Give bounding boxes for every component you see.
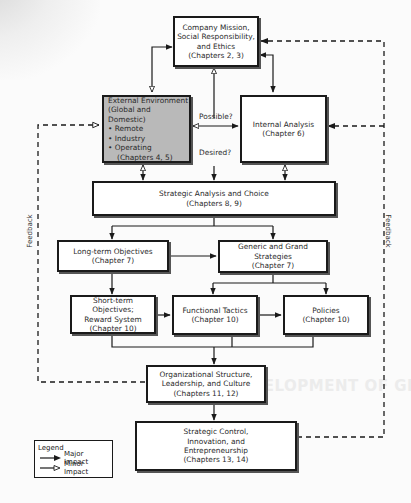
node-text: External Environment [108, 96, 188, 105]
node-text: (Chapter 10) [191, 315, 238, 324]
node-text: Strategic Analysis and Choice [159, 189, 269, 198]
bullet-item: • Industry [108, 134, 145, 143]
node-text: Long-term Objectives [73, 247, 152, 256]
node-text: (Chapters 2, 3) [188, 51, 244, 60]
node-text: Social Responsibility, [177, 32, 255, 41]
node-text: Reward System [84, 315, 141, 324]
node-text: and Ethics [197, 42, 235, 51]
node-external-environment: External Environment (Global and Domesti… [102, 95, 191, 163]
node-text: (Chapters 13, 14) [183, 455, 248, 464]
edge-label-desired: Desired? [199, 148, 231, 157]
node-strategic-analysis: Strategic Analysis and Choice (Chapters … [92, 181, 336, 216]
legend-item-minor: Minor Impact [38, 463, 109, 473]
node-text: (Chapter 10) [89, 324, 136, 333]
node-policies: Policies (Chapter 10) [283, 295, 369, 335]
node-text: (Chapters 4, 5) [108, 153, 173, 162]
legend: Legend Major Impact Minor Impact [34, 440, 113, 478]
node-text: Organizational Structure, [160, 370, 253, 379]
bullet-item: • Operating [108, 143, 152, 152]
node-strategic-control: Strategic Control, Innovation, and Entre… [135, 421, 297, 471]
node-text: Short-term Objectives; [72, 296, 154, 315]
node-functional-tactics: Functional Tactics (Chapter 10) [172, 295, 258, 335]
feedback-label-left: Feedback [26, 214, 34, 247]
feedback-label-right: Feedback [384, 214, 392, 247]
node-text: Generic and Grand Strategies [220, 242, 326, 261]
node-text: (Chapters 8, 9) [186, 199, 242, 208]
node-long-term-objectives: Long-term Objectives (Chapter 7) [57, 240, 169, 272]
node-text: Leadership, and Culture [162, 379, 250, 388]
node-text: (Chapter 10) [302, 315, 349, 324]
node-text: Strategic Control, [184, 427, 249, 436]
node-text: (Chapter 7) [252, 261, 294, 270]
node-internal-analysis: Internal Analysis (Chapter 6) [240, 95, 327, 163]
node-text: Functional Tactics [182, 306, 247, 315]
node-generic-grand-strategies: Generic and Grand Strategies (Chapter 7) [218, 240, 328, 273]
node-text: (Chapter 7) [92, 256, 134, 265]
bullet-item: • Remote [108, 124, 143, 133]
node-organizational-structure: Organizational Structure, Leadership, an… [146, 365, 266, 403]
node-text: Internal Analysis [253, 120, 314, 129]
node-text: (Chapters 11, 12) [173, 389, 238, 398]
filled-arrow-icon [38, 454, 62, 462]
node-text: Entrepreneurship [184, 446, 248, 455]
edge-label-possible: Possible? [199, 112, 233, 121]
hollow-arrow-icon [38, 464, 62, 472]
legend-label: Minor Impact [64, 460, 109, 476]
node-text: Company Mission, [182, 23, 249, 32]
node-company-mission: Company Mission, Social Responsibility, … [173, 16, 259, 67]
node-text: Policies [312, 306, 339, 315]
node-short-term-objectives: Short-term Objectives; Reward System (Ch… [70, 295, 156, 334]
node-text: (Global and Domestic) [108, 105, 189, 124]
node-text: Innovation, and [187, 437, 245, 446]
node-text: (Chapter 6) [262, 129, 304, 138]
